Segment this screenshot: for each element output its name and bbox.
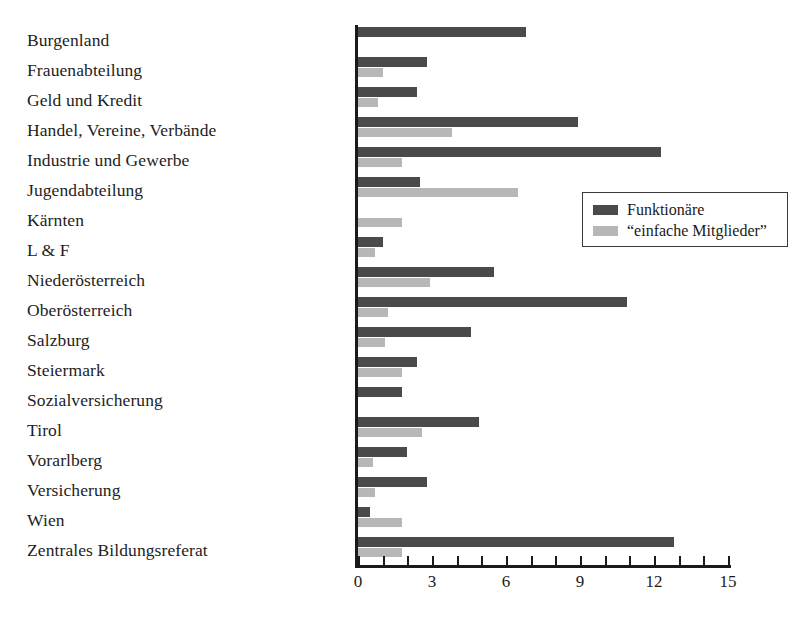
category-label: Sozialversicherung <box>0 385 345 415</box>
bar-einfache-mitglieder <box>358 68 383 77</box>
category-label: Oberösterreich <box>0 295 345 325</box>
x-axis-tick-label: 9 <box>576 572 585 592</box>
bar-group <box>358 505 728 535</box>
bar-funktionaere <box>358 477 427 487</box>
category-label: Versicherung <box>0 475 345 505</box>
bar-chart: BurgenlandFrauenabteilungGeld und Kredit… <box>0 0 804 625</box>
bar-einfache-mitglieder <box>358 308 388 317</box>
x-axis-tick <box>728 556 730 565</box>
x-axis-tick <box>679 556 681 565</box>
category-label: Geld und Kredit <box>0 85 345 115</box>
x-axis-tick <box>358 556 360 565</box>
x-axis-tick <box>432 556 434 565</box>
bar-funktionaere <box>358 237 383 247</box>
bar-group <box>358 535 728 565</box>
bar-funktionaere <box>358 387 402 397</box>
category-label: Tirol <box>0 415 345 445</box>
bar-einfache-mitglieder <box>358 248 375 257</box>
bar-einfache-mitglieder <box>358 98 378 107</box>
x-axis-tick-label: 6 <box>502 572 511 592</box>
legend-swatch-icon <box>593 226 618 236</box>
bar-funktionaere <box>358 57 427 67</box>
category-label: Niederösterreich <box>0 265 345 295</box>
category-label: Industrie und Gewerbe <box>0 145 345 175</box>
x-axis-tick-label: 0 <box>354 572 363 592</box>
legend-entry: “einfache Mitglieder” <box>593 220 777 241</box>
legend-label: “einfache Mitglieder” <box>627 222 767 240</box>
x-axis-tick <box>506 556 508 565</box>
x-axis-tick <box>555 556 557 565</box>
category-label: Zentrales Bildungsreferat <box>0 535 345 565</box>
x-axis-tick-label: 3 <box>428 572 437 592</box>
bar-group <box>358 355 728 385</box>
bar-einfache-mitglieder <box>358 128 452 137</box>
bar-group <box>358 385 728 415</box>
legend-label: Funktionäre <box>627 201 704 219</box>
bar-group <box>358 55 728 85</box>
bar-group <box>358 145 728 175</box>
x-axis-tick <box>383 556 385 565</box>
bar-einfache-mitglieder <box>358 188 518 197</box>
bar-einfache-mitglieder <box>358 548 402 557</box>
bar-einfache-mitglieder <box>358 368 402 377</box>
bar-funktionaere <box>358 27 526 37</box>
legend-swatch-icon <box>593 205 618 215</box>
category-label: Vorarlberg <box>0 445 345 475</box>
bar-group <box>358 325 728 355</box>
x-axis-tick <box>629 556 631 565</box>
category-label-column: BurgenlandFrauenabteilungGeld und Kredit… <box>0 25 345 565</box>
category-label: Jugendabteilung <box>0 175 345 205</box>
bar-funktionaere <box>358 87 417 97</box>
category-label: Salzburg <box>0 325 345 355</box>
x-axis-tick-label: 15 <box>720 572 737 592</box>
bar-funktionaere <box>358 177 420 187</box>
bar-einfache-mitglieder <box>358 428 422 437</box>
legend: Funktionäre“einfache Mitglieder” <box>582 192 788 247</box>
bar-group <box>358 265 728 295</box>
category-label: Kärnten <box>0 205 345 235</box>
x-axis-tick <box>703 556 705 565</box>
bar-einfache-mitglieder <box>358 458 373 467</box>
bar-group <box>358 25 728 55</box>
bar-funktionaere <box>358 267 494 277</box>
legend-entry: Funktionäre <box>593 199 777 220</box>
bar-einfache-mitglieder <box>358 278 430 287</box>
bar-group <box>358 115 728 145</box>
bar-einfache-mitglieder <box>358 338 385 347</box>
x-axis-tick <box>407 556 409 565</box>
bar-einfache-mitglieder <box>358 218 402 227</box>
bar-group <box>358 295 728 325</box>
bar-funktionaere <box>358 357 417 367</box>
bar-group <box>358 415 728 445</box>
category-label: Burgenland <box>0 25 345 55</box>
category-label: Steiermark <box>0 355 345 385</box>
bar-group <box>358 475 728 505</box>
x-axis-line <box>358 565 731 568</box>
x-axis-tick <box>481 556 483 565</box>
bar-funktionaere <box>358 327 471 337</box>
category-label: Handel, Vereine, Verbände <box>0 115 345 145</box>
bar-funktionaere <box>358 447 407 457</box>
x-axis-tick-label: 12 <box>646 572 663 592</box>
x-axis-tick <box>531 556 533 565</box>
bar-einfache-mitglieder <box>358 488 375 497</box>
x-axis-tick <box>457 556 459 565</box>
x-axis-tick <box>580 556 582 565</box>
category-label: Frauenabteilung <box>0 55 345 85</box>
x-axis-tick <box>654 556 656 565</box>
plot-area <box>358 25 728 565</box>
category-label: L & F <box>0 235 345 265</box>
bar-funktionaere <box>358 297 627 307</box>
bar-funktionaere <box>358 417 479 427</box>
bar-group <box>358 445 728 475</box>
category-label: Wien <box>0 505 345 535</box>
bar-funktionaere <box>358 507 370 517</box>
bar-einfache-mitglieder <box>358 158 402 167</box>
bar-group <box>358 85 728 115</box>
bar-einfache-mitglieder <box>358 518 402 527</box>
bar-funktionaere <box>358 537 674 547</box>
bar-funktionaere <box>358 147 661 157</box>
x-axis-tick <box>605 556 607 565</box>
bar-funktionaere <box>358 117 578 127</box>
